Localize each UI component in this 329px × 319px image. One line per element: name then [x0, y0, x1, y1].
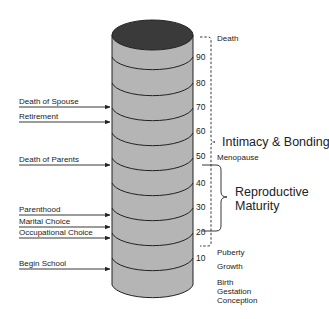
- event-marital-choice: Marital Choice: [19, 217, 110, 227]
- event-label: Death of Spouse: [19, 97, 79, 106]
- phase-reproductive-line2: Maturity: [235, 199, 280, 213]
- age-label-80: 80: [196, 78, 206, 88]
- age-label-50: 50: [196, 151, 206, 161]
- life-stages-diagram: 90 80 70 60 50 40 30 20 10 Death of Spou…: [0, 0, 329, 319]
- cylinder: [112, 20, 193, 298]
- age-label-30: 30: [196, 202, 206, 212]
- milestone-gestation: Gestation: [217, 287, 251, 296]
- event-parenthood: Parenthood: [19, 205, 110, 215]
- milestone-menopause: Menopause: [217, 153, 259, 162]
- age-label-10: 10: [196, 253, 206, 263]
- event-label: Parenthood: [19, 205, 60, 214]
- event-label: Retirement: [19, 112, 59, 121]
- event-occupational-choice: Occupational Choice: [19, 228, 110, 238]
- phase-intimacy-bonding: Intimacy & Bonding: [222, 135, 329, 149]
- milestone-conception: Conception: [217, 296, 257, 305]
- age-label-90: 90: [196, 52, 206, 62]
- event-retirement: Retirement: [19, 112, 110, 122]
- milestone-growth: Growth: [217, 262, 243, 271]
- milestone-birth: Birth: [217, 278, 233, 287]
- age-label-40: 40: [196, 178, 206, 188]
- reproductive-brace: [202, 165, 227, 231]
- age-label-60: 60: [196, 126, 206, 136]
- age-label-20: 20: [196, 227, 206, 237]
- event-label: Begin School: [19, 259, 66, 268]
- event-label: Marital Choice: [19, 217, 71, 226]
- event-label: Death of Parents: [19, 155, 79, 164]
- life-events: Death of Spouse Retirement Death of Pare…: [19, 97, 110, 269]
- milestone-puberty: Puberty: [217, 248, 245, 257]
- event-label: Occupational Choice: [19, 228, 93, 237]
- event-begin-school: Begin School: [19, 259, 110, 269]
- event-death-of-parents: Death of Parents: [19, 155, 110, 165]
- intimacy-dashed-brace: [200, 37, 215, 246]
- milestone-death: Death: [217, 34, 238, 43]
- event-death-of-spouse: Death of Spouse: [19, 97, 110, 107]
- age-label-70: 70: [196, 102, 206, 112]
- phase-reproductive-line1: Reproductive: [235, 185, 309, 199]
- cylinder-top: [112, 20, 193, 50]
